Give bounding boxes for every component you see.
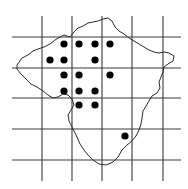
occurrence-dot xyxy=(75,101,82,108)
distribution-map xyxy=(0,0,188,189)
occurrence-dot xyxy=(91,101,98,108)
occurrence-dot xyxy=(60,40,67,47)
occurrence-dot xyxy=(121,132,128,139)
occurrence-dot xyxy=(106,40,113,47)
occurrence-dot xyxy=(75,40,82,47)
occurrence-dot xyxy=(75,71,82,78)
occurrence-dot xyxy=(75,87,82,94)
occurrence-dot xyxy=(46,56,53,63)
occurrence-dot xyxy=(60,56,67,63)
occurrence-dot xyxy=(91,56,98,63)
occurrence-dot xyxy=(91,40,98,47)
occurrence-dot xyxy=(60,71,67,78)
occurrence-dot xyxy=(91,87,98,94)
occurrence-dot xyxy=(60,87,67,94)
occurrence-dots xyxy=(46,40,128,139)
occurrence-dot xyxy=(106,71,113,78)
